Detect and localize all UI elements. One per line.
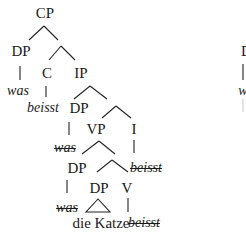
node-cp: CP xyxy=(36,6,54,21)
node-c: C xyxy=(42,66,52,81)
node-dp-subj: DP xyxy=(69,101,88,116)
node-i: I xyxy=(132,122,137,137)
tree-branches xyxy=(0,0,246,233)
word-was-trace-2: was xyxy=(56,201,78,215)
syntax-tree-diagram: CP DP was C beisst IP DP was VP I beisst… xyxy=(0,0,246,233)
node-ip: IP xyxy=(74,66,87,81)
node-v: V xyxy=(122,181,133,196)
node-dp-spec: DP xyxy=(11,44,30,59)
word-was-partial-right: was xyxy=(238,84,246,98)
word-beisst-trace-1: beisst xyxy=(130,161,162,175)
word-was-trace-1: was xyxy=(54,141,76,155)
word-beisst-moved: beisst xyxy=(27,101,59,115)
node-vp: VP xyxy=(86,122,105,137)
node-dp-inner: DP xyxy=(67,161,86,176)
node-dp-obj: DP xyxy=(89,181,108,196)
node-dp-partial-right: D xyxy=(241,44,246,59)
word-beisst-trace-2: beisst xyxy=(128,216,160,230)
word-was-moved: was xyxy=(7,84,29,98)
phrase-die-katze: die Katze xyxy=(72,216,129,231)
